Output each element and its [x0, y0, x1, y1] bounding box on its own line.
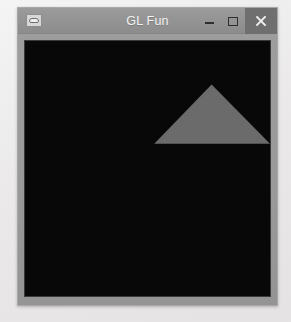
window-client-frame	[18, 34, 277, 305]
triangle-scene	[25, 41, 270, 296]
minimize-icon	[205, 22, 214, 24]
maximize-button[interactable]	[221, 8, 245, 34]
close-icon	[256, 16, 267, 27]
triangle-shape	[154, 84, 270, 143]
window-titlebar[interactable]: GL Fun	[18, 8, 277, 34]
application-icon	[26, 14, 42, 27]
application-window[interactable]: GL Fun	[17, 7, 278, 306]
close-button[interactable]	[245, 8, 277, 34]
application-icon-glyph	[29, 18, 39, 23]
minimize-button[interactable]	[197, 8, 221, 34]
window-caption-buttons	[197, 8, 277, 34]
maximize-icon	[228, 17, 238, 26]
opengl-render-surface[interactable]	[24, 40, 271, 297]
